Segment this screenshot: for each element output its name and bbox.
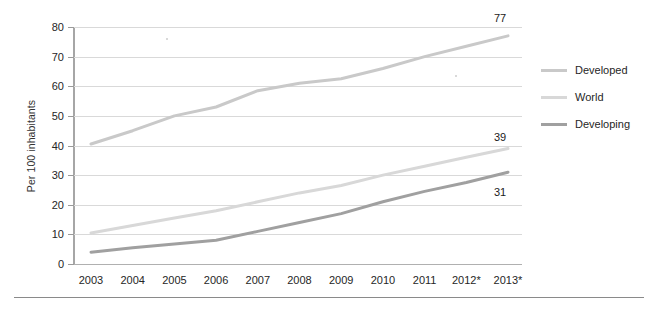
series-lines xyxy=(0,0,657,311)
series-line-developed xyxy=(91,36,508,144)
legend-label-developed: Developed xyxy=(575,64,628,76)
legend-item-world: World xyxy=(541,87,653,107)
legend-swatch-developed xyxy=(541,69,567,72)
endpoint-label-world: 39 xyxy=(494,131,506,143)
legend-item-developing: Developing xyxy=(541,114,653,134)
endpoint-label-developing: 31 xyxy=(494,186,506,198)
legend-swatch-world xyxy=(541,96,567,99)
series-line-developing xyxy=(91,172,508,252)
line-chart-figure: Per 100 inhabitants 80 70 60 50 40 30 20… xyxy=(0,0,657,311)
legend-item-developed: Developed xyxy=(541,60,653,80)
chart-legend: Developed World Developing xyxy=(541,60,653,141)
series-line-world xyxy=(91,149,508,233)
endpoint-label-developed: 77 xyxy=(494,12,506,24)
bottom-divider xyxy=(14,297,644,298)
legend-label-developing: Developing xyxy=(575,118,630,130)
legend-swatch-developing xyxy=(541,123,567,126)
legend-label-world: World xyxy=(575,91,604,103)
